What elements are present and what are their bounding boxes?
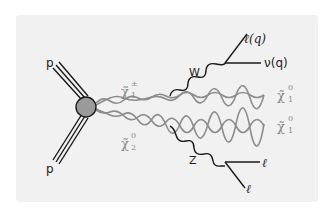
svg-text:1: 1 [288, 95, 293, 104]
svg-text:χ̃: χ̃ [277, 88, 285, 103]
svg-text:±: ± [131, 79, 138, 88]
z-decay-lepton2-line [225, 162, 245, 188]
svg-text:2: 2 [131, 143, 136, 152]
svg-text:1: 1 [288, 126, 293, 135]
proton-label-upper: p [46, 56, 54, 70]
svg-text:0: 0 [288, 83, 293, 92]
interaction-blob [76, 97, 96, 117]
svg-text:χ̃: χ̃ [121, 84, 129, 99]
proton-label-lower: p [46, 162, 54, 176]
lsp-label-upper: χ̃ 0 1 [277, 83, 293, 104]
z-lepton1-label: ℓ [262, 156, 267, 170]
w-boson-label: W [189, 66, 200, 79]
svg-text:1: 1 [131, 91, 136, 100]
neutralino2-label: χ̃ 0 2 [121, 131, 136, 152]
svg-text:0: 0 [131, 131, 136, 140]
w-lepton-label: ℓ(q) [244, 32, 266, 46]
z-lepton2-label: ℓ [246, 182, 251, 196]
incoming-proton-upper [53, 62, 88, 100]
svg-text:χ̃: χ̃ [121, 136, 129, 151]
incoming-proton-lower [53, 114, 88, 164]
lsp-label-lower: χ̃ 0 1 [277, 114, 293, 135]
svg-text:0: 0 [288, 114, 293, 123]
feynman-diagram: p p χ̃ ± 1 χ̃ 0 2 W Z ℓ(q) ν(q) χ̃ 0 1 χ… [0, 0, 325, 217]
svg-text:χ̃: χ̃ [277, 119, 285, 134]
z-boson-label: Z [189, 154, 197, 167]
w-neutrino-label: ν(q) [264, 56, 288, 70]
